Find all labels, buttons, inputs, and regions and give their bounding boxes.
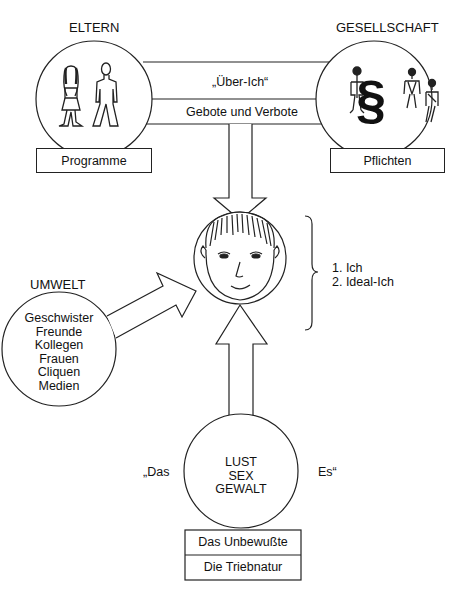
es-item: GEWALT bbox=[201, 483, 281, 497]
es-list: LUST SEX GEWALT bbox=[201, 456, 281, 497]
umwelt-item: Kollegen bbox=[9, 339, 109, 353]
ich-item: 1. Ich bbox=[332, 262, 394, 276]
arrow-down-icon bbox=[214, 124, 266, 220]
gesellschaft-title: GESELLSCHAFT bbox=[336, 21, 439, 34]
ich-list: 1. Ich 2. Ideal-Ich bbox=[332, 262, 394, 289]
pflichten-box: Pflichten bbox=[330, 148, 445, 173]
es-item: SEX bbox=[201, 470, 281, 484]
paragraph-law-icon: § bbox=[356, 69, 386, 129]
ideal-ich-item: 2. Ideal-Ich bbox=[332, 276, 394, 290]
eltern-title: ELTERN bbox=[69, 21, 119, 34]
umwelt-list: Geschwister Freunde Kollegen Frauen Cliq… bbox=[9, 312, 109, 393]
brace-icon bbox=[305, 216, 318, 330]
ueber-ich-label: „Über-Ich“ bbox=[212, 76, 268, 89]
programme-box: Programme bbox=[36, 148, 152, 173]
eltern-circle bbox=[36, 41, 152, 157]
unbewusste-label: Das Unbewußte bbox=[185, 536, 301, 549]
arrow-diagonal-icon bbox=[107, 273, 196, 338]
umwelt-item: Geschwister bbox=[9, 312, 109, 326]
umwelt-title: UMWELT bbox=[30, 278, 85, 291]
umwelt-item: Freunde bbox=[9, 326, 109, 340]
es-label: Es“ bbox=[318, 466, 337, 479]
triebnatur-label: Die Triebnatur bbox=[185, 561, 301, 574]
umwelt-item: Frauen bbox=[9, 353, 109, 367]
diagram-canvas: § bbox=[0, 0, 460, 599]
gebote-verbote-label: Gebote und Verbote bbox=[186, 106, 298, 119]
das-label: „Das bbox=[143, 466, 169, 479]
arrow-up-icon bbox=[216, 305, 267, 422]
umwelt-item: Cliquen bbox=[9, 366, 109, 380]
umwelt-item: Medien bbox=[9, 380, 109, 394]
ich-circle bbox=[194, 212, 286, 304]
es-item: LUST bbox=[201, 456, 281, 470]
